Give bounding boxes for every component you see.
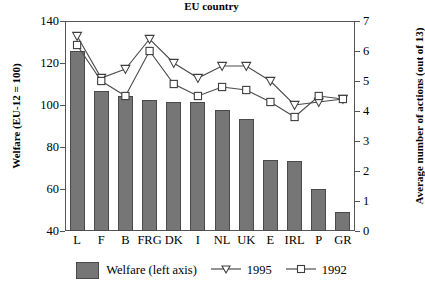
x-axis-tick-label: I xyxy=(196,233,200,248)
y-axis-right-tick xyxy=(355,21,360,22)
marker-1992 xyxy=(267,98,274,105)
legend-swatch-welfare xyxy=(76,262,99,279)
marker-1992 xyxy=(218,83,225,90)
marker-1995 xyxy=(169,59,178,67)
marker-1992 xyxy=(73,41,80,48)
x-axis-tick-label: IRL xyxy=(285,233,305,248)
y-axis-left-tick-label: 120 xyxy=(40,56,59,71)
marker-1995 xyxy=(121,65,130,73)
y-axis-right-tick xyxy=(355,51,360,52)
y-axis-left-title: Welfare (EU-12 = 100) xyxy=(10,16,22,216)
marker-1992 xyxy=(146,47,153,54)
square-marker-icon xyxy=(286,263,316,279)
y-axis-left-tick-label: 140 xyxy=(40,14,59,29)
marker-1992 xyxy=(339,95,346,102)
marker-1992 xyxy=(170,80,177,87)
y-axis-right-tick-label: 3 xyxy=(363,134,369,149)
x-axis-tick-label: GR xyxy=(334,233,351,248)
chart-legend: Welfare (left axis) 1995 1992 xyxy=(0,262,423,279)
x-axis-tick-label: E xyxy=(267,233,275,248)
legend-item-welfare: Welfare (left axis) xyxy=(76,262,197,279)
y-axis-right-tick-label: 5 xyxy=(363,74,369,89)
x-axis-tick-label: F xyxy=(98,233,105,248)
x-axis-tick-label: P xyxy=(315,233,322,248)
line-series-group xyxy=(65,21,355,231)
y-axis-right-tick xyxy=(355,111,360,112)
marker-1992 xyxy=(98,77,105,84)
line-1995 xyxy=(77,36,343,105)
y-axis-right-tick xyxy=(355,231,360,232)
y-axis-left-tick-label: 100 xyxy=(40,98,59,113)
marker-1992 xyxy=(243,86,250,93)
line-1992 xyxy=(77,45,343,117)
y-axis-right-tick-label: 1 xyxy=(363,194,369,209)
y-axis-left-tick-label: 80 xyxy=(47,140,60,155)
x-axis-tick-label: UK xyxy=(237,233,255,248)
y-axis-right-tick-label: 2 xyxy=(363,164,369,179)
y-axis-right-tick-label: 0 xyxy=(363,224,369,239)
x-axis-tick-label: DK xyxy=(165,233,183,248)
marker-1992 xyxy=(315,92,322,99)
y-axis-right-tick xyxy=(355,171,360,172)
x-axis-tick-label: FRG xyxy=(137,233,161,248)
y-axis-right-tick xyxy=(355,141,360,142)
x-axis-title: EU country xyxy=(0,0,423,12)
y-axis-left-tick xyxy=(60,231,65,232)
legend-item-1992: 1992 xyxy=(272,263,347,279)
x-axis-tick-label: NL xyxy=(214,233,231,248)
marker-1995 xyxy=(73,32,82,40)
y-axis-right-tick-label: 7 xyxy=(363,14,369,29)
y-axis-right-tick xyxy=(355,201,360,202)
marker-1995 xyxy=(290,101,299,109)
marker-1992 xyxy=(122,92,129,99)
y-axis-right-tick-label: 4 xyxy=(363,104,369,119)
legend-item-1995: 1995 xyxy=(197,263,272,279)
legend-label-1992: 1992 xyxy=(322,263,347,278)
legend-label-1995: 1995 xyxy=(247,263,272,278)
x-axis-tick-label: L xyxy=(73,233,81,248)
y-axis-right-tick xyxy=(355,81,360,82)
plot-area: 406080100120140 01234567 LFBFRGDKINLUKEI… xyxy=(65,21,355,231)
legend-label-welfare: Welfare (left axis) xyxy=(106,263,197,278)
y-axis-right-tick-label: 6 xyxy=(363,44,369,59)
x-axis-tick-label: B xyxy=(121,233,129,248)
marker-1995 xyxy=(194,74,203,82)
y-axis-left-tick-label: 40 xyxy=(47,224,60,239)
y-axis-left-tick-label: 60 xyxy=(47,182,60,197)
triangle-down-marker-icon xyxy=(211,263,241,279)
y-axis-right-title: Average number of actions (out of 13) xyxy=(413,16,425,216)
marker-1992 xyxy=(194,92,201,99)
marker-1992 xyxy=(291,113,298,120)
